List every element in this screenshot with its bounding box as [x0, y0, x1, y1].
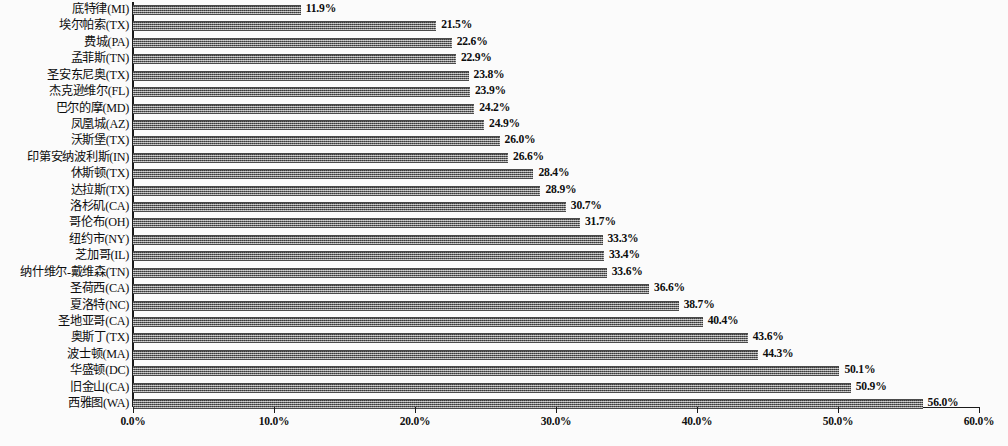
x-axis-tick-label: 60.0% [964, 415, 995, 427]
category-label: 华盛顿(DC) [70, 362, 129, 378]
bar-row: 费城(PA)22.6% [0, 34, 1008, 50]
bar-row: 达拉斯(TX)28.9% [0, 182, 1008, 198]
bar [133, 301, 679, 311]
bar [133, 202, 566, 212]
bar-row: 底特律(MI)11.9% [0, 1, 1008, 17]
category-label: 芝加哥(IL) [75, 247, 129, 263]
bar-row: 孟菲斯(TN)22.9% [0, 50, 1008, 66]
bar-row: 巴尔的摩(MD)24.2% [0, 100, 1008, 116]
x-axis-tick-mark [133, 407, 134, 413]
bar-value-label: 21.5% [441, 17, 472, 33]
bar [133, 366, 839, 376]
bar [133, 71, 469, 81]
category-label: 奥斯丁(TX) [71, 329, 129, 345]
category-label: 哥伦布(OH) [69, 214, 129, 230]
bar-value-label: 33.3% [608, 231, 639, 247]
bar-row: 西雅图(WA)56.0% [0, 395, 1008, 411]
bar [133, 87, 470, 97]
bar-row: 印第安纳波利斯(IN)26.6% [0, 149, 1008, 165]
bar [133, 251, 604, 261]
category-label: 沃斯堡(TX) [71, 132, 129, 148]
bar [133, 169, 533, 179]
category-label: 圣地亚哥(CA) [58, 313, 129, 329]
bar [133, 284, 649, 294]
bar [133, 38, 452, 48]
bar-row: 华盛顿(DC)50.1% [0, 362, 1008, 378]
bar [133, 350, 758, 360]
category-label: 杰克逊维尔(FL) [49, 83, 129, 99]
bar [133, 5, 301, 15]
bar-value-label: 28.4% [538, 165, 569, 181]
category-label: 纽约市(NY) [69, 231, 129, 247]
x-axis-tick-label: 10.0% [259, 415, 290, 427]
bar [133, 21, 436, 31]
category-label: 底特律(MI) [72, 1, 129, 17]
category-label: 圣荷西(CA) [70, 280, 129, 296]
x-axis-tick-mark [697, 407, 698, 413]
bar-value-label: 36.6% [654, 280, 685, 296]
x-axis-tick-label: 40.0% [682, 415, 713, 427]
bar-value-label: 26.0% [505, 132, 536, 148]
bar-value-label: 22.6% [457, 34, 488, 50]
bar-row: 纽约市(NY)33.3% [0, 231, 1008, 247]
bar-value-label: 43.6% [753, 329, 784, 345]
category-label: 波士顿(MA) [67, 346, 129, 362]
horizontal-bar-chart: 底特律(MI)11.9%埃尔帕索(TX)21.5%费城(PA)22.6%孟菲斯(… [0, 0, 1008, 446]
bar-row: 洛杉矶(CA)30.7% [0, 198, 1008, 214]
bar-row: 哥伦布(OH)31.7% [0, 214, 1008, 230]
category-label: 圣安东尼奥(TX) [47, 67, 129, 83]
bar [133, 333, 748, 343]
category-label: 费城(PA) [84, 34, 129, 50]
bar-value-label: 24.9% [489, 116, 520, 132]
bar [133, 399, 923, 409]
bar-value-label: 30.7% [571, 198, 602, 214]
bar-row: 圣地亚哥(CA)40.4% [0, 313, 1008, 329]
bar-row: 奥斯丁(TX)43.6% [0, 329, 1008, 345]
bar [133, 317, 703, 327]
bar-value-label: 26.6% [513, 149, 544, 165]
bar-value-label: 33.4% [609, 247, 640, 263]
bar-row: 埃尔帕索(TX)21.5% [0, 17, 1008, 33]
x-axis-tick-label: 50.0% [823, 415, 854, 427]
bar-value-label: 56.0% [928, 395, 959, 411]
category-label: 西雅图(WA) [68, 395, 129, 411]
bar-value-label: 23.9% [475, 83, 506, 99]
x-axis-tick-label: 0.0% [120, 415, 145, 427]
bar-value-label: 24.2% [479, 100, 510, 116]
bar-value-label: 40.4% [708, 313, 739, 329]
category-label: 洛杉矶(CA) [70, 198, 129, 214]
category-label: 孟菲斯(TN) [71, 50, 129, 66]
bar-value-label: 23.8% [474, 67, 505, 83]
category-label: 巴尔的摩(MD) [56, 100, 129, 116]
bar-value-label: 11.9% [306, 1, 336, 17]
category-label: 休斯顿(TX) [71, 165, 129, 181]
bar-row: 旧金山(CA)50.9% [0, 379, 1008, 395]
bar-row: 夏洛特(NC)38.7% [0, 297, 1008, 313]
x-axis-tick-label: 20.0% [400, 415, 431, 427]
x-axis-tick-mark [556, 407, 557, 413]
category-label: 纳什维尔-戴维森(TN) [20, 264, 129, 280]
bar [133, 54, 456, 64]
bar-value-label: 33.6% [612, 264, 643, 280]
bar-row: 纳什维尔-戴维森(TN)33.6% [0, 264, 1008, 280]
x-axis-tick-mark [979, 407, 980, 413]
bar [133, 235, 603, 245]
bar [133, 218, 580, 228]
x-axis-tick-mark [838, 407, 839, 413]
bar [133, 268, 607, 278]
category-label: 印第安纳波利斯(IN) [27, 149, 129, 165]
bar [133, 120, 484, 130]
category-label: 夏洛特(NC) [70, 297, 129, 313]
bar-value-label: 31.7% [585, 214, 616, 230]
bar-row: 芝加哥(IL)33.4% [0, 247, 1008, 263]
bar [133, 104, 474, 114]
bar-value-label: 50.1% [844, 362, 875, 378]
bar-value-label: 28.9% [545, 182, 576, 198]
x-axis-tick-label: 30.0% [541, 415, 572, 427]
category-label: 埃尔帕索(TX) [59, 17, 129, 33]
bar-row: 沃斯堡(TX)26.0% [0, 132, 1008, 148]
category-label: 旧金山(CA) [70, 379, 129, 395]
bar-row: 凤凰城(AZ)24.9% [0, 116, 1008, 132]
bar-row: 圣荷西(CA)36.6% [0, 280, 1008, 296]
x-axis-tick-mark [415, 407, 416, 413]
